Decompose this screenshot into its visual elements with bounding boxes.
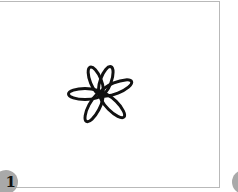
panel-number-badge: 1 <box>0 170 18 192</box>
next-panel-number-badge <box>232 170 238 192</box>
six-petal-flower-icon <box>0 2 221 189</box>
figure-panel-1 <box>0 1 220 188</box>
